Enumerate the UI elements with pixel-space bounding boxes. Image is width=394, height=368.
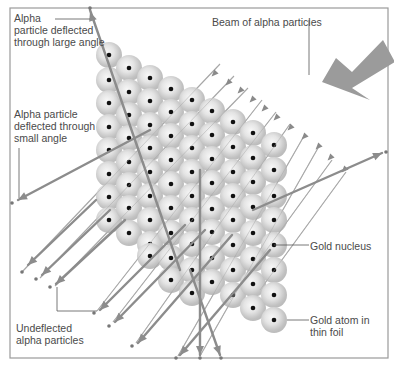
label-large-angle: Alpha particle deflected through large a… bbox=[14, 12, 105, 48]
alpha-particle-dot bbox=[198, 356, 202, 360]
beam-arrowhead-icon bbox=[250, 95, 257, 102]
nucleus-dot bbox=[210, 109, 215, 114]
nucleus-dot bbox=[169, 134, 174, 139]
alpha-particle-dot bbox=[384, 150, 388, 154]
gold-atom bbox=[261, 207, 287, 233]
nucleus-dot bbox=[272, 293, 277, 298]
nucleus-dot bbox=[231, 194, 236, 199]
nucleus-dot bbox=[190, 98, 195, 103]
nucleus-dot bbox=[251, 231, 256, 236]
label-undeflected: Undeflected alpha particles bbox=[16, 322, 84, 346]
nucleus-dot bbox=[190, 122, 195, 127]
nucleus-dot bbox=[231, 170, 236, 175]
beam-arrowhead-icon bbox=[288, 123, 295, 130]
beam-direction-arrow-icon bbox=[322, 40, 394, 100]
beam-arrowhead-icon bbox=[328, 153, 335, 160]
nucleus-dot bbox=[148, 218, 153, 223]
nucleus-dot bbox=[251, 156, 256, 161]
label-gold-nucleus: Gold nucleus bbox=[310, 240, 371, 252]
undeflected-bracket bbox=[57, 287, 97, 311]
nucleus-dot bbox=[127, 231, 132, 236]
nucleus-dot bbox=[251, 282, 256, 287]
nucleus-dot bbox=[107, 125, 112, 130]
alpha-particle-dot bbox=[88, 6, 92, 10]
nucleus-dot bbox=[148, 194, 153, 199]
nucleus-dot bbox=[107, 78, 112, 83]
path-lower-left-3 bbox=[48, 220, 125, 289]
gold-atom bbox=[261, 257, 287, 283]
alpha-particle-dot bbox=[34, 277, 38, 281]
nucleus-dot bbox=[190, 194, 195, 199]
nucleus-dot bbox=[148, 76, 153, 81]
nucleus-dot bbox=[190, 170, 195, 175]
nucleus-dot bbox=[127, 160, 132, 165]
nucleus-dot bbox=[169, 206, 174, 211]
arrowhead-icon bbox=[213, 345, 221, 355]
nucleus-dot bbox=[272, 318, 277, 323]
nucleus-dot bbox=[148, 170, 153, 175]
nucleus-dot bbox=[190, 146, 195, 151]
nucleus-dot bbox=[231, 218, 236, 223]
gold-atom bbox=[261, 157, 287, 183]
beam-arrowhead-icon bbox=[226, 78, 233, 85]
nucleus-dot bbox=[210, 157, 215, 162]
nucleus-dot bbox=[169, 87, 174, 92]
nucleus-dot bbox=[210, 280, 215, 285]
alpha-particle-dot bbox=[219, 356, 223, 360]
nucleus-dot bbox=[169, 256, 174, 261]
beam-arrowhead-icon bbox=[262, 104, 269, 111]
nucleus-dot bbox=[148, 123, 153, 128]
nucleus-dot bbox=[148, 146, 153, 151]
alpha-particle-dot bbox=[48, 285, 52, 289]
beam-arrowhead-icon bbox=[212, 69, 219, 76]
nucleus-dot bbox=[169, 182, 174, 187]
nucleus-dot bbox=[231, 120, 236, 125]
alpha-particle-dot bbox=[107, 324, 111, 328]
nucleus-dot bbox=[231, 268, 236, 273]
gold-atom bbox=[261, 132, 287, 158]
diagram-canvas bbox=[0, 0, 394, 368]
beam-arrowhead-icon bbox=[302, 132, 309, 139]
nucleus-dot bbox=[210, 207, 215, 212]
label-gold-atom: Gold atom in thin foil bbox=[310, 314, 370, 338]
alpha-particle-dot bbox=[92, 311, 96, 315]
gold-atom bbox=[261, 282, 287, 308]
alpha-particle-dot bbox=[20, 270, 24, 274]
path-lower-left-1 bbox=[20, 200, 96, 274]
nucleus-dot bbox=[190, 291, 195, 296]
nucleus-dot bbox=[272, 218, 277, 223]
deflected-paths bbox=[10, 6, 388, 360]
label-beam: Beam of alpha particles bbox=[212, 16, 322, 28]
gold-foil-atoms bbox=[22, 42, 346, 356]
nucleus-dot bbox=[231, 243, 236, 248]
nucleus-dot bbox=[107, 172, 112, 177]
nucleus-dot bbox=[127, 90, 132, 95]
alpha-particle-dot bbox=[174, 356, 178, 360]
rutherford-diagram: Alpha particle deflected through large a… bbox=[0, 0, 394, 368]
beam-arrowhead-icon bbox=[316, 142, 323, 149]
label-small-angle: Alpha particle deflected through small a… bbox=[14, 108, 95, 144]
nucleus-dot bbox=[107, 218, 112, 223]
nucleus-dot bbox=[231, 145, 236, 150]
nucleus-dot bbox=[251, 306, 256, 311]
nucleus-dot bbox=[169, 278, 174, 283]
nucleus-dot bbox=[127, 66, 132, 71]
nucleus-dot bbox=[251, 180, 256, 185]
gold-atom bbox=[261, 307, 287, 333]
nucleus-dot bbox=[107, 101, 112, 106]
nucleus-dot bbox=[148, 99, 153, 104]
nucleus-dot bbox=[107, 195, 112, 200]
nucleus-dot bbox=[210, 133, 215, 138]
nucleus-dot bbox=[210, 181, 215, 186]
nucleus-dot bbox=[272, 168, 277, 173]
nucleus-dot bbox=[169, 158, 174, 163]
nucleus-dot bbox=[272, 194, 277, 199]
nucleus-dot bbox=[169, 231, 174, 236]
nucleus-dot bbox=[251, 131, 256, 136]
alpha-particle-dot bbox=[130, 344, 134, 348]
alpha-particle-dot bbox=[10, 201, 14, 205]
